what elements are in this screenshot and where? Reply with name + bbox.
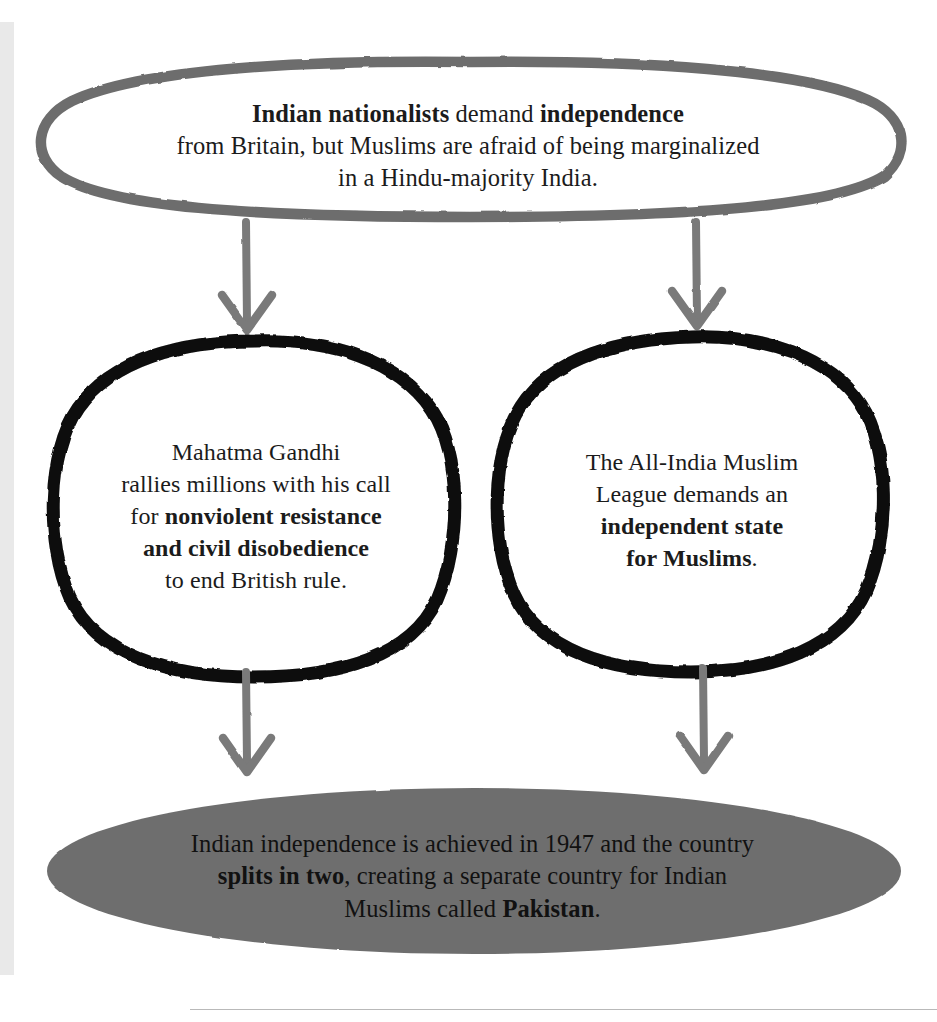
node-bottom-text: Indian independence is achieved in 1947 … (100, 828, 845, 925)
node-bottom-line-3: Muslims called Pakistan. (100, 893, 845, 925)
node-top-text: Indian nationalists demand independence … (118, 98, 818, 194)
node-bottom-line-2-plain: , creating a separate country for Indian (344, 862, 727, 889)
node-left-line-3-plain: for (130, 503, 164, 529)
node-left-line-3: for nonviolent resistance (86, 501, 426, 533)
node-left-line-1: Mahatma Gandhi (86, 437, 426, 469)
node-right-line-1: The All-India Muslim (520, 447, 864, 479)
node-left-text: Mahatma Gandhi rallies millions with his… (86, 437, 426, 597)
diagram-page: Indian nationalists demand independence … (0, 0, 937, 1022)
node-bottom-line-3-period: . (594, 895, 600, 922)
arrow-left-to-bottom (223, 672, 271, 772)
node-left-line-4: and civil disobedience (86, 533, 426, 565)
node-right-line-3-bold: independent state (601, 513, 783, 539)
node-top-line-1-bold-b: independence (540, 100, 684, 127)
node-top-line-3: in a Hindu-majority India. (118, 162, 818, 194)
node-left-line-3-bold: nonviolent resistance (165, 503, 382, 529)
node-bottom-line-1: Indian independence is achieved in 1947 … (100, 828, 845, 860)
node-right-line-2: League demands an (520, 479, 864, 511)
node-bottom-line-3-bold: Pakistan (502, 895, 594, 922)
node-left-line-4-bold: and civil disobedience (143, 535, 369, 561)
node-bottom-line-2: splits in two, creating a separate count… (100, 860, 845, 892)
node-top-line-1-plain: demand (449, 100, 540, 127)
node-right-line-3: independent state (520, 511, 864, 543)
node-right-line-4: for Muslims. (520, 543, 864, 575)
node-bottom-line-3-plain: Muslims called (344, 895, 502, 922)
arrow-top-to-right (672, 222, 722, 326)
node-right-line-4-bold: for Muslims (626, 545, 751, 571)
node-top-line-1: Indian nationalists demand independence (118, 98, 818, 130)
node-bottom-line-2-bold: splits in two (218, 862, 345, 889)
arrow-right-to-bottom (680, 668, 728, 770)
node-top-line-1-bold-a: Indian nationalists (252, 100, 449, 127)
arrow-top-to-left (222, 222, 272, 330)
node-right-line-4-period: . (752, 545, 758, 571)
node-left-line-5: to end British rule. (86, 565, 426, 597)
node-top-line-2: from Britain, but Muslims are afraid of … (118, 130, 818, 162)
node-right-text: The All-India Muslim League demands an i… (520, 447, 864, 575)
node-left-line-2: rallies millions with his call (86, 469, 426, 501)
